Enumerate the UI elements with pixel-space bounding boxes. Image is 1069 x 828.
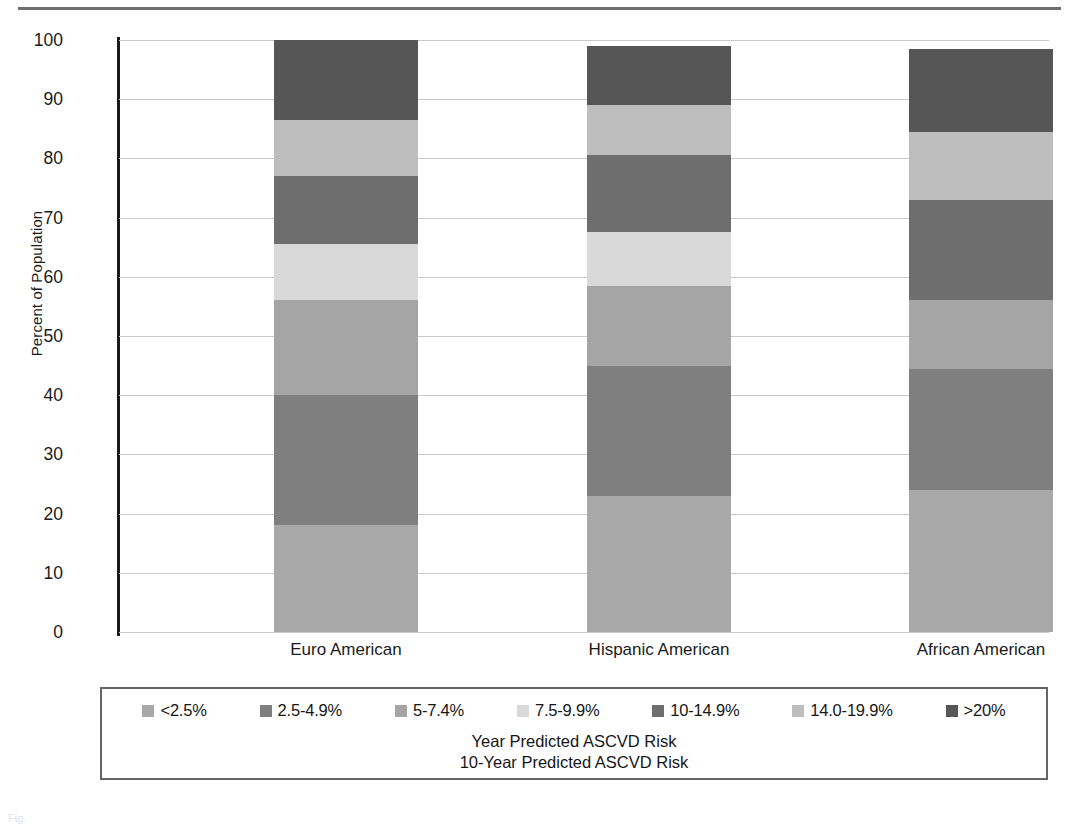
bar-segment[interactable] — [274, 120, 418, 176]
y-axis-tick-label-30: 30 — [1, 444, 63, 465]
legend-caption-line-1: Year Predicted ASCVD Risk — [102, 731, 1046, 752]
bar-segment[interactable] — [909, 49, 1053, 132]
y-axis-tick-label-50: 50 — [1, 326, 63, 347]
legend-label: <2.5% — [160, 701, 206, 720]
legend-item-4[interactable]: 10-14.9% — [652, 701, 739, 720]
bar-segment[interactable] — [587, 496, 731, 632]
legend-label: 7.5-9.9% — [535, 701, 599, 720]
legend-item-2[interactable]: 5-7.4% — [395, 701, 464, 720]
figure-container: Percent of Population 010203040506070809… — [0, 0, 1069, 828]
legend-label: 5-7.4% — [413, 701, 464, 720]
y-axis-tick-label-70: 70 — [1, 208, 63, 229]
y-axis-tick-label-40: 40 — [1, 385, 63, 406]
bar-segment[interactable] — [274, 40, 418, 120]
bar-segment[interactable] — [274, 176, 418, 244]
legend-item-3[interactable]: 7.5-9.9% — [517, 701, 599, 720]
y-axis-tick-label-80: 80 — [1, 148, 63, 169]
y-axis-tick-label-0: 0 — [1, 622, 63, 643]
figure-caption-partial: Fig. — [8, 812, 26, 824]
bar-group-1[interactable] — [587, 40, 731, 632]
legend-swatch-icon — [260, 705, 272, 717]
legend-label: 2.5-4.9% — [278, 701, 342, 720]
bar-segment[interactable] — [909, 369, 1053, 490]
legend-label: 10-14.9% — [670, 701, 739, 720]
bar-segment[interactable] — [274, 300, 418, 395]
legend-label: 14.0-19.9% — [810, 701, 892, 720]
legend-swatch-icon — [946, 705, 958, 717]
legend-items: <2.5%2.5-4.9%5-7.4%7.5-9.9%10-14.9%14.0-… — [102, 701, 1046, 720]
bar-segment[interactable] — [587, 155, 731, 232]
gridline-0 — [119, 632, 1049, 633]
legend-swatch-icon — [142, 705, 154, 717]
legend-item-1[interactable]: 2.5-4.9% — [260, 701, 342, 720]
y-axis-tick-label-90: 90 — [1, 89, 63, 110]
y-axis-tick-label-100: 100 — [1, 30, 63, 51]
x-axis-tick-label-0: Euro American — [274, 640, 418, 660]
legend-swatch-icon — [792, 705, 804, 717]
bar-segment[interactable] — [274, 395, 418, 525]
x-axis-tick-label-2: African American — [909, 640, 1053, 660]
bar-segment[interactable] — [587, 105, 731, 155]
legend-item-5[interactable]: 14.0-19.9% — [792, 701, 892, 720]
y-axis-tick-label-20: 20 — [1, 504, 63, 525]
bar-segment[interactable] — [909, 490, 1053, 632]
bar-group-0[interactable] — [274, 40, 418, 632]
bar-segment[interactable] — [909, 300, 1053, 368]
bar-segment[interactable] — [909, 200, 1053, 301]
legend-swatch-icon — [652, 705, 664, 717]
plot-area: 0102030405060708090100Euro AmericanHispa… — [119, 40, 1049, 632]
bar-segment[interactable] — [587, 232, 731, 285]
bar-segment[interactable] — [587, 46, 731, 105]
bar-group-2[interactable] — [909, 40, 1053, 632]
legend-swatch-icon — [395, 705, 407, 717]
y-axis-tick-label-10: 10 — [1, 563, 63, 584]
bar-segment[interactable] — [274, 525, 418, 632]
bar-segment[interactable] — [587, 366, 731, 496]
legend-swatch-icon — [517, 705, 529, 717]
bar-segment[interactable] — [587, 286, 731, 366]
legend-item-0[interactable]: <2.5% — [142, 701, 206, 720]
legend-caption: Year Predicted ASCVD Risk 10-Year Predic… — [102, 731, 1046, 773]
y-axis-tick-label-60: 60 — [1, 267, 63, 288]
top-horizontal-rule — [18, 7, 1061, 10]
x-axis-tick-label-1: Hispanic American — [587, 640, 731, 660]
bar-segment[interactable] — [274, 244, 418, 300]
legend-caption-line-2: 10-Year Predicted ASCVD Risk — [102, 752, 1046, 773]
legend-label: >20% — [964, 701, 1006, 720]
legend-item-6[interactable]: >20% — [946, 701, 1006, 720]
bar-segment[interactable] — [909, 132, 1053, 200]
legend-box: <2.5%2.5-4.9%5-7.4%7.5-9.9%10-14.9%14.0-… — [100, 687, 1048, 780]
